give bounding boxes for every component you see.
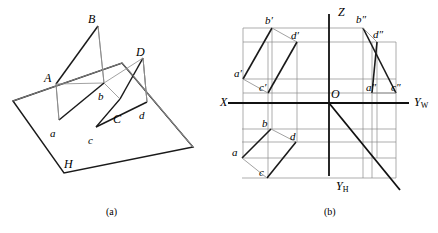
label-w-proj-b: b″ xyxy=(356,14,366,25)
caption-b: (b) xyxy=(324,206,336,217)
label-vertex-a: a xyxy=(50,128,56,139)
hproj-edge-c-d xyxy=(267,142,296,178)
edge-C-to-upper xyxy=(104,83,120,99)
axis-yh-letter: Y xyxy=(336,179,343,193)
edge-A-B xyxy=(56,26,98,84)
label-v-proj-d: d′ xyxy=(291,30,299,41)
label-h-proj-d: d xyxy=(290,131,296,142)
axis-line-45-bisector xyxy=(329,103,400,190)
figure-root: A B D C a b c d H a′ b′ c′ d′ a″ b″ c″ d… xyxy=(0,0,438,233)
label-axis-Z: Z xyxy=(338,6,345,18)
label-h-proj-b: b xyxy=(262,118,268,129)
label-vertex-d: d xyxy=(139,110,145,121)
label-axis-YH: YH xyxy=(336,180,348,194)
edge-a-vertical xyxy=(56,84,59,120)
label-vertex-A: A xyxy=(44,72,51,84)
label-vertex-B: B xyxy=(88,13,95,25)
label-v-proj-a: a′ xyxy=(234,68,242,79)
label-plane-H: H xyxy=(64,158,73,170)
label-vertex-b: b xyxy=(98,91,104,102)
label-vertex-c: c xyxy=(88,135,93,146)
edge-d-vertical xyxy=(143,58,147,102)
label-h-proj-c: c xyxy=(259,167,264,178)
edge-b-vertical xyxy=(98,26,104,83)
caption-a: (a) xyxy=(106,206,117,217)
label-v-proj-b: b′ xyxy=(265,15,273,26)
axis-yw-letter: Y xyxy=(414,95,421,109)
hproj-edge-a-b xyxy=(242,129,271,158)
label-axis-X: X xyxy=(220,96,227,108)
label-w-proj-a: a″ xyxy=(366,82,376,93)
label-vertex-C: C xyxy=(113,113,121,125)
label-v-proj-c: c′ xyxy=(259,82,266,93)
label-vertex-D: D xyxy=(136,46,145,58)
orthographic-view xyxy=(228,14,409,190)
edge-b-D-trace xyxy=(104,58,143,83)
label-w-proj-c: c″ xyxy=(391,82,400,93)
axis-yh-subscript: H xyxy=(343,185,349,194)
label-h-proj-a: a xyxy=(232,147,238,158)
axis-yw-subscript: W xyxy=(421,101,429,110)
label-origin-O: O xyxy=(331,88,340,100)
label-axis-YW: YW xyxy=(414,96,428,110)
label-w-proj-d: d″ xyxy=(373,29,383,40)
